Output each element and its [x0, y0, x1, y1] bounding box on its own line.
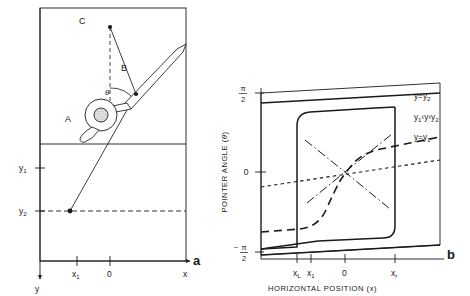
svg-text:π: π — [241, 243, 246, 252]
panel-a-bearing — [94, 108, 108, 122]
panel-b-xlabel-x1: x1 — [307, 268, 315, 279]
panel-a-axis-x-label: x — [183, 269, 188, 279]
panel-b-unstable-branch-up — [307, 134, 392, 203]
panel-b-letter: b — [447, 247, 455, 262]
panel-b-unstable-branch-down — [305, 140, 390, 209]
panel-b-curve-y-eq-y2-upper — [261, 107, 395, 249]
panel-b-xlabel-xL: xL — [293, 268, 301, 279]
panel-a-letter: a — [193, 253, 201, 268]
panel-b-xlabel-zero: 0 — [342, 268, 347, 278]
panel-b-curve-y-eq-y2-lower — [261, 107, 395, 249]
panel-a-lower-pivot-dot — [68, 209, 73, 214]
panel-b-legend: y=y2 y1‹y‹y2 y=y1 — [414, 92, 439, 143]
panel-a: y1 y2 x1 0 x y — [19, 8, 201, 294]
panel-a-point-c-dot — [108, 25, 112, 29]
legend-item-y1-lt-y-lt-y2: y1‹y‹y2 — [414, 113, 439, 123]
panel-a-xlabel-x1: x1 — [72, 269, 80, 280]
svg-text:−: − — [234, 243, 239, 252]
panel-a-xlabel-zero: 0 — [107, 269, 112, 279]
figure-container: y1 y2 x1 0 x y — [0, 0, 470, 296]
svg-text:2: 2 — [242, 254, 246, 263]
legend-item-y-eq-y1: y=y1 — [414, 133, 431, 143]
panel-a-axis-y-label: y — [35, 284, 40, 294]
panel-b-curve-y-eq-y1 — [261, 160, 440, 187]
svg-text:π: π — [240, 84, 245, 93]
figure-svg: y1 y2 x1 0 x y — [0, 0, 470, 296]
panel-b-curve-y1-lt-y-lt-y2 — [261, 137, 440, 232]
panel-b: π 2 0 − π 2 xL x1 0 xr — [220, 83, 455, 293]
panel-a-point-b-dot — [134, 92, 138, 96]
panel-a-label-theta: θ — [105, 88, 110, 97]
panel-a-label-c: C — [79, 16, 86, 26]
panel-b-xlabel-xr: xr — [391, 268, 397, 279]
panel-b-ylabel-pi-over-2: π 2 — [239, 84, 247, 104]
panel-a-label-a: A — [65, 114, 71, 124]
panel-a-ylabel-y2: y2 — [19, 206, 27, 217]
panel-b-ylabel-zero: 0 — [244, 167, 249, 177]
panel-a-counterweight — [80, 127, 99, 142]
panel-b-ylabel-neg-pi-over-2: − π 2 — [234, 243, 248, 263]
panel-b-x-axis-title: HORIZONTAL POSITION (x) — [268, 284, 377, 293]
panel-b-envelope-lower — [261, 245, 440, 255]
panel-a-label-b: B — [121, 63, 127, 73]
panel-b-y-axis-title: POINTER ANGLE (θ) — [220, 131, 229, 212]
panel-a-link-cb — [110, 27, 136, 94]
svg-text:2: 2 — [241, 95, 245, 104]
panel-a-pointer-arm — [124, 44, 186, 109]
panel-a-ylabel-y1: y1 — [19, 163, 27, 174]
